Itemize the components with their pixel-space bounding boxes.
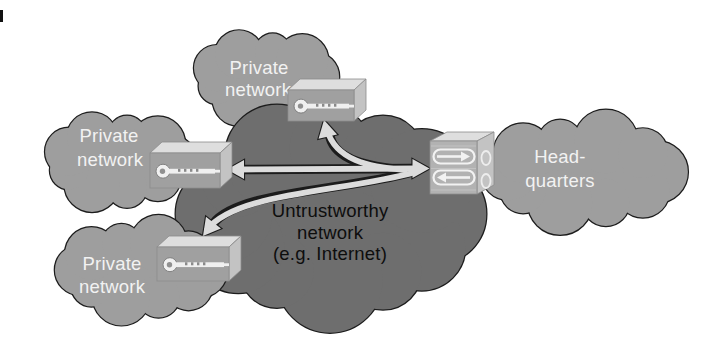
headquarters-label-line1: Head-: [534, 146, 585, 167]
private-network-top-label-line1: Private: [230, 57, 289, 78]
private-network-middle-label-line2: network: [77, 149, 144, 170]
box-top-face: [288, 79, 366, 90]
vpn-gateway-box-bottom: [157, 236, 241, 281]
private-network-bottom-label-line1: Private: [83, 253, 142, 274]
private-network-top-label-line2: network: [225, 79, 292, 100]
box-top-face: [150, 142, 232, 153]
headquarters-label-line2: quarters: [525, 170, 594, 191]
diagram-canvas: Private network Private network Private …: [0, 0, 701, 339]
hq-box-side-face: [477, 132, 494, 194]
vpn-gateway-box-middle: [150, 142, 232, 188]
private-network-bottom-label-line2: network: [79, 276, 146, 297]
headquarters-gateway-box: [430, 132, 494, 194]
vpn-network-diagram: Private network Private network Private …: [0, 0, 701, 339]
box-top-face: [157, 236, 241, 247]
untrustworthy-network-label-line2: network: [297, 222, 364, 243]
untrustworthy-network-label-line3: (e.g. Internet): [273, 243, 387, 264]
vpn-gateway-box-top: [288, 79, 366, 121]
private-network-middle-label-line1: Private: [80, 125, 139, 146]
untrustworthy-network-label-line1: Untrustworthy: [272, 200, 389, 221]
